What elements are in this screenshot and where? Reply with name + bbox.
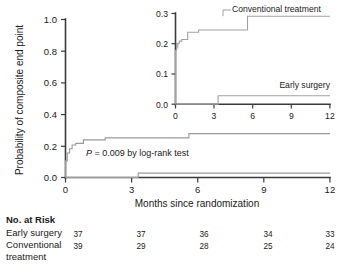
risk-table-row-conventional-treatment: Conventional treatment 39 29 28 25 24 <box>6 239 335 262</box>
inset-x-tick-labels: 0 3 6 9 12 <box>173 111 335 121</box>
inset-x-tick-label-0: 0 <box>173 111 178 121</box>
risk-value-conventional-9: 25 <box>263 242 273 251</box>
main-x-tick-label-0: 0 <box>63 184 68 195</box>
risk-row-label-conventional: Conventional <box>6 239 61 250</box>
inset-series-label-conventional-treatment: Conventional treatment <box>232 4 321 14</box>
pvalue-annotation: P = 0.009 by log-rank test <box>86 148 189 158</box>
figure-svg: Probability of composite end point 1.0 0… <box>0 0 344 264</box>
main-y-tick-label-0.2: 0.2 <box>44 141 57 152</box>
inset-x-tick-label-9: 9 <box>289 111 294 121</box>
inset-series-label-early-surgery: Early surgery <box>279 80 330 90</box>
main-y-tick-label-0.4: 0.4 <box>44 109 57 120</box>
main-y-tick-label-0.8: 0.8 <box>44 46 57 57</box>
main-x-axis-title: Months since randomization <box>135 198 260 209</box>
inset-y-tick-label-0.3: 0.3 <box>156 9 168 19</box>
risk-row-label-conventional-line2: treatment <box>6 251 46 262</box>
inset-curve-early-surgery <box>176 96 331 104</box>
inset-x-tick-label-12: 12 <box>325 111 335 121</box>
risk-value-conventional-0: 39 <box>73 242 83 251</box>
pvalue-rest: = 0.009 by log-rank test <box>92 148 189 158</box>
inset-x-tick-label-6: 6 <box>250 111 255 121</box>
risk-value-early-surgery-0: 37 <box>73 230 83 239</box>
inset-y-tick-label-0.2: 0.2 <box>156 39 168 49</box>
risk-value-conventional-12: 24 <box>325 242 335 251</box>
inset-y-tick-label-0.1: 0.1 <box>156 69 168 79</box>
main-x-tick-labels: 0 3 6 9 12 <box>63 184 335 195</box>
main-y-tick-label-0.0: 0.0 <box>44 172 57 183</box>
inset-chart: 0.3 0.2 0.1 0.0 0 3 6 9 12 <box>156 4 335 121</box>
risk-value-early-surgery-3: 37 <box>136 230 146 239</box>
main-x-tick-label-12: 12 <box>325 184 336 195</box>
main-y-tick-label-1.0: 1.0 <box>44 14 57 25</box>
risk-table-title: No. at Risk <box>6 214 56 225</box>
inset-leader-conventional <box>223 10 231 16</box>
kaplan-meier-figure: Probability of composite end point 1.0 0… <box>0 0 344 264</box>
main-y-axis-title: Probability of composite end point <box>14 25 25 175</box>
risk-table: No. at Risk Early surgery 37 37 36 34 33… <box>6 214 335 262</box>
risk-value-early-surgery-12: 33 <box>325 230 335 239</box>
inset-y-tick-labels: 0.3 0.2 0.1 0.0 <box>156 9 168 110</box>
main-x-tick-label-6: 6 <box>195 184 200 195</box>
main-y-tick-label-0.6: 0.6 <box>44 77 57 88</box>
risk-value-conventional-6: 28 <box>199 242 209 251</box>
inset-curve-conventional-treatment <box>176 16 331 104</box>
main-x-tick-label-3: 3 <box>129 184 134 195</box>
inset-y-tick-label-0.0: 0.0 <box>156 100 168 110</box>
risk-value-early-surgery-9: 34 <box>263 230 273 239</box>
inset-x-tick-label-3: 3 <box>212 111 217 121</box>
risk-table-row-early-surgery: Early surgery 37 37 36 34 33 <box>6 227 335 239</box>
risk-row-label-early-surgery: Early surgery <box>6 227 62 238</box>
risk-value-early-surgery-6: 36 <box>199 230 209 239</box>
risk-value-conventional-3: 29 <box>136 242 146 251</box>
main-y-tick-labels: 1.0 0.8 0.6 0.4 0.2 0.0 <box>44 14 57 183</box>
main-x-tick-label-9: 9 <box>261 184 266 195</box>
